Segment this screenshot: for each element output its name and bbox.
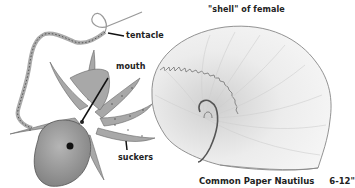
tentacle-leader-line	[108, 33, 124, 36]
eye	[67, 143, 74, 150]
mouth-label: mouth	[116, 62, 146, 71]
caption: Common Paper Nautilus 6-12"	[199, 176, 355, 186]
suckers-leader-line	[126, 141, 127, 150]
suckers-label: suckers	[118, 153, 153, 162]
shell-label: "shell" of female	[208, 5, 285, 14]
female-shell	[152, 26, 331, 170]
species-name: Common Paper Nautilus	[199, 176, 314, 186]
tentacle-label: tentacle	[126, 31, 164, 40]
species-size: 6-12"	[329, 176, 355, 186]
